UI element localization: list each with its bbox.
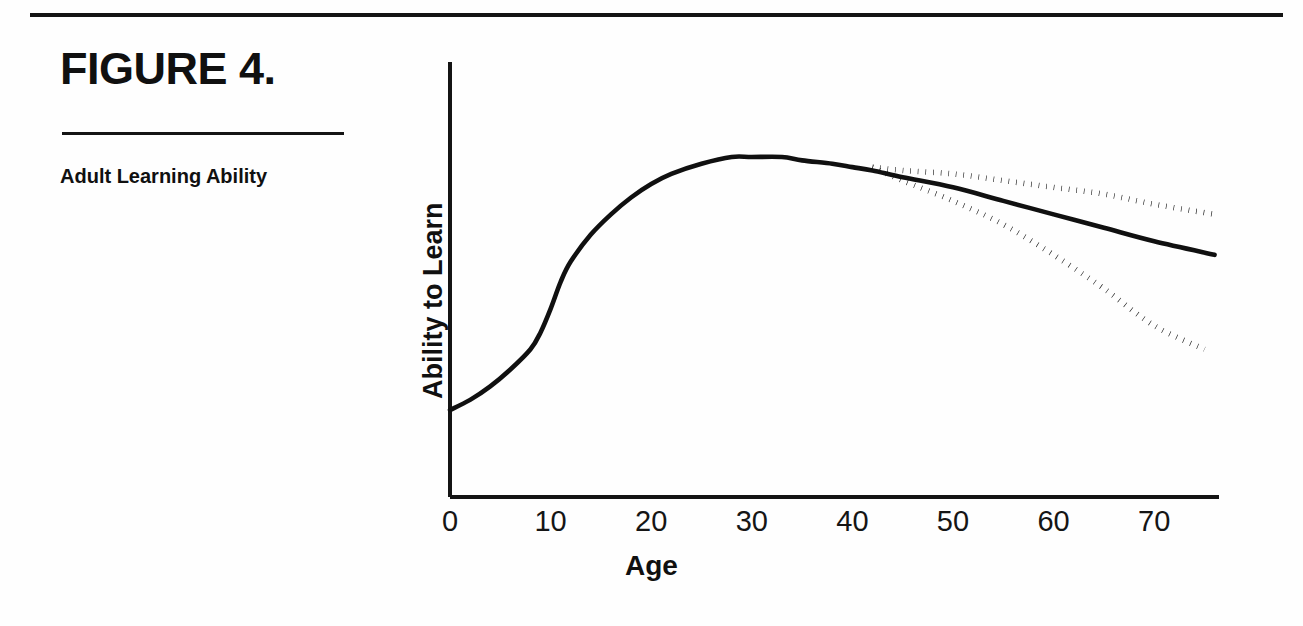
x-tick-label: 0 <box>420 505 480 538</box>
x-tick-label: 40 <box>822 505 882 538</box>
figure-page: FIGURE 4. Adult Learning Ability Ability… <box>0 0 1303 626</box>
chart-series-line <box>873 167 1205 349</box>
x-tick-label: 50 <box>923 505 983 538</box>
x-tick-label: 60 <box>1024 505 1084 538</box>
x-axis-title: Age <box>0 550 1303 582</box>
x-tick-label: 30 <box>722 505 782 538</box>
x-tick-label: 70 <box>1124 505 1184 538</box>
x-tick-label: 20 <box>621 505 681 538</box>
chart-series-line <box>873 167 1215 214</box>
chart-series-line <box>450 157 1215 410</box>
x-tick-label: 10 <box>521 505 581 538</box>
